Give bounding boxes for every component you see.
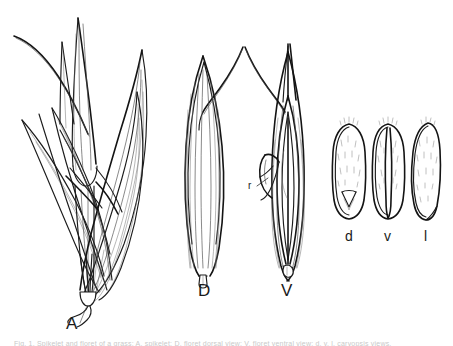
caryopsis-v-ventral: [372, 117, 404, 219]
caryopsis-l-lateral: [412, 117, 441, 220]
botanical-plate: .o { fill:none; stroke:#1c1c1c; stroke-w…: [0, 0, 453, 346]
rachilla-label-r: r: [248, 181, 251, 191]
caryopsis-d-dorsal: [332, 117, 365, 219]
caryopsis-label-d: d: [345, 229, 353, 243]
panel-label-d: D: [198, 282, 211, 299]
plate-caption: Fig. 1. Spikelet and floret of a grass: …: [14, 340, 444, 346]
plate-linework: .o { fill:none; stroke:#1c1c1c; stroke-w…: [0, 0, 453, 346]
caryopsis-label-v: v: [384, 229, 391, 243]
panel-a-spikelet: [14, 18, 147, 327]
panel-v-floret-ventral: [245, 44, 304, 281]
panel-label-a: A: [66, 315, 78, 332]
panel-d-floret-dorsal: [185, 47, 243, 288]
caryopsis-label-l: l: [424, 229, 427, 243]
panel-label-v: V: [281, 282, 293, 299]
